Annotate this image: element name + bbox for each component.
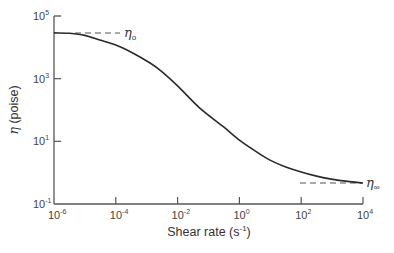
eta0-label: ηo (124, 25, 137, 42)
y-tick-label: 105 (33, 9, 49, 22)
x-tick-label: 104 (357, 208, 373, 221)
viscosity-curve (54, 33, 363, 183)
x-ticks: 10-610-410-2100102104 (48, 197, 373, 221)
x-tick-label: 10-4 (110, 208, 129, 221)
viscosity-chart: 10-610-410-2100102104 10-1101103105 ηo η… (0, 0, 394, 253)
etainf-label: η∞ (366, 175, 380, 192)
x-tick-label: 102 (295, 208, 311, 221)
x-axis-label: Shear rate (s-1) (167, 224, 251, 239)
y-tick-label: 101 (33, 134, 49, 147)
y-axis-label: η (poise) (6, 85, 21, 134)
x-tick-label: 100 (233, 208, 249, 221)
x-tick-label: 10-2 (172, 208, 191, 221)
y-ticks: 10-1101103105 (33, 9, 61, 210)
x-tick-label: 10-6 (48, 208, 67, 221)
y-tick-label: 103 (33, 72, 49, 85)
